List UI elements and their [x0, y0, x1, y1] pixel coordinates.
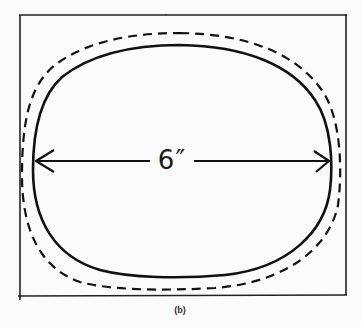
dimension-label: 6″ — [150, 143, 194, 177]
figure-caption: (b) — [160, 305, 200, 315]
